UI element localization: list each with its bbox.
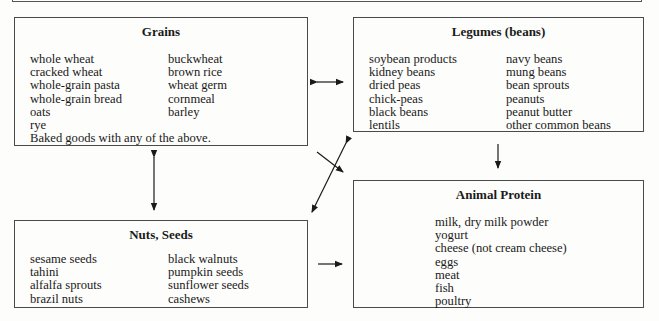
arrow-grains-animal xyxy=(317,152,343,172)
arrow-legumes-nuts xyxy=(312,143,346,212)
connection-arrows xyxy=(0,0,659,321)
